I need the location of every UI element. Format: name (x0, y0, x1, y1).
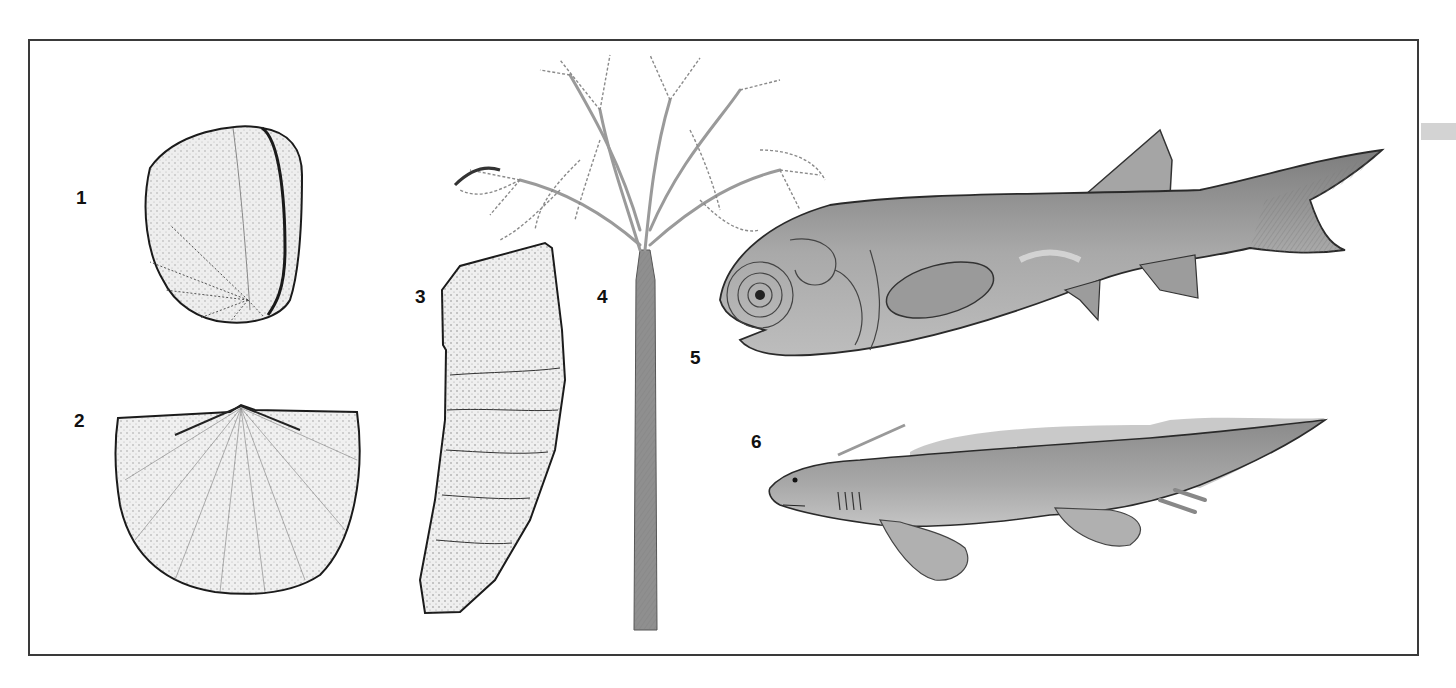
figure-label-3: 3 (415, 287, 426, 306)
figure-5-armored-fish (720, 130, 1382, 355)
plate-artwork (0, 0, 1456, 688)
figure-6-lobe-finned-fish (769, 418, 1325, 580)
figure-2-brachiopod (116, 405, 360, 594)
figure-label-2: 2 (74, 411, 85, 430)
figure-label-6: 6 (751, 432, 762, 451)
figure-label-1: 1 (76, 188, 87, 207)
figure-3-horn-coral (420, 243, 565, 613)
figure-label-5: 5 (690, 348, 701, 367)
figure-1-coiled-shell (146, 126, 302, 322)
figure-label-4: 4 (597, 287, 608, 306)
